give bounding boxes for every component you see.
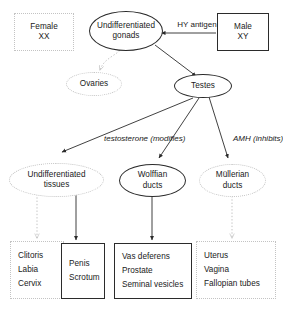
outcome-item: Cervix <box>18 277 41 291</box>
edge-gonads-to-ovaries <box>100 48 122 70</box>
outcome-item: Fallopian tubes <box>204 277 260 291</box>
node-male-xy: Male XY <box>217 13 269 51</box>
edge-label-hy-antigen-line1: HY <box>177 20 188 29</box>
outcome-box-male-internal: Vas deferens Prostate Seminal vesicles <box>114 243 192 299</box>
edge-gonads-to-testes <box>155 45 196 76</box>
node-wolffian-ducts-line2: ducts <box>143 181 163 192</box>
node-mullerian-ducts: Müllerian ducts <box>199 164 266 197</box>
outcome-item: Scrotum <box>69 271 100 285</box>
node-wolffian-ducts-line1: Wolffian <box>138 170 167 181</box>
outcome-item: Prostate <box>122 264 153 278</box>
outcome-item: Seminal vesicles <box>122 278 183 292</box>
node-female-xx-line2: XX <box>39 32 50 43</box>
outcome-item: Labia <box>18 263 38 277</box>
edge-label-testosterone: testosterone (modifies) <box>104 134 166 144</box>
edge-label-amh-line2: (inhibits) <box>253 134 283 143</box>
node-undifferentiated-tissues-line1: Undifferentiated <box>28 170 86 181</box>
outcome-item: Clitoris <box>18 249 43 263</box>
outcome-item: Vagina <box>204 263 229 277</box>
edge-label-amh: AMH (inhibits) <box>233 134 281 144</box>
node-undifferentiated-gonads-line2: gonads <box>113 31 140 42</box>
node-undifferentiated-tissues: Undifferentiated tissues <box>9 163 104 197</box>
edge-testes-to-wolffian <box>159 98 199 158</box>
node-female-xx-line1: Female <box>30 22 57 33</box>
edge-label-hy-antigen-line2: antigen <box>190 20 216 29</box>
node-undifferentiated-tissues-line2: tissues <box>44 180 70 191</box>
edge-label-amh-line1: AMH <box>233 134 251 143</box>
outcome-item: Uterus <box>204 249 228 263</box>
outcome-box-female-external: Clitoris Labia Cervix <box>10 241 64 299</box>
edge-label-testosterone-line2: (modifies) <box>150 134 185 143</box>
outcome-item: Penis <box>69 257 90 271</box>
outcome-box-female-internal: Uterus Vagina Fallopian tubes <box>196 241 276 299</box>
node-ovaries-label: Ovaries <box>80 79 108 90</box>
outcome-box-male-external: Penis Scrotum <box>61 243 105 299</box>
edge-label-testosterone-line1: testosterone <box>104 134 148 143</box>
node-male-xy-line2: XY <box>238 32 249 43</box>
sexual-differentiation-diagram: Female XX Undifferentiated gonads HY ant… <box>0 0 283 312</box>
node-undifferentiated-gonads: Undifferentiated gonads <box>89 11 163 51</box>
node-male-xy-line1: Male <box>234 22 252 33</box>
node-mullerian-ducts-line2: ducts <box>223 181 243 192</box>
edge-label-hy-antigen: HY antigen <box>176 20 218 30</box>
node-testes: Testes <box>174 74 232 98</box>
node-ovaries: Ovaries <box>66 72 122 96</box>
node-female-xx: Female XX <box>14 13 74 51</box>
node-mullerian-ducts-line1: Müllerian <box>216 170 249 181</box>
node-wolffian-ducts: Wolffian ducts <box>119 164 186 197</box>
edge-testes-to-mullerian <box>209 97 228 158</box>
node-testes-label: Testes <box>191 81 215 92</box>
outcome-item: Vas deferens <box>122 250 170 264</box>
node-undifferentiated-gonads-line1: Undifferentiated <box>97 21 155 32</box>
